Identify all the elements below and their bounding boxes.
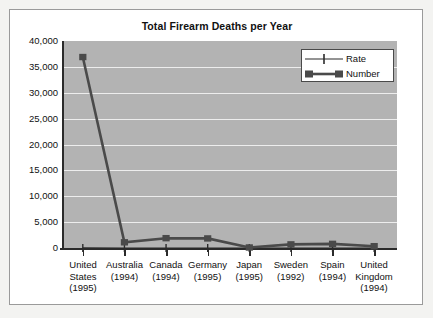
screenshot-root: Total Firearm Deaths per Year 40,000 35,… xyxy=(0,0,433,318)
x-label-line: States xyxy=(69,271,96,283)
x-axis-label-canada: Canada (1994) xyxy=(149,259,182,282)
x-label-line: (1994) xyxy=(106,271,143,283)
chart-card: Total Firearm Deaths per Year 40,000 35,… xyxy=(9,9,423,305)
legend-label-rate: Rate xyxy=(346,53,366,65)
y-tick-label: 35,000 xyxy=(12,62,58,72)
x-axis-label-germany: Germany (1995) xyxy=(188,259,227,282)
gridline-10000 xyxy=(64,196,397,197)
x-label-line: (1995) xyxy=(235,271,262,283)
gridline-25000 xyxy=(64,119,397,120)
x-label-line: United xyxy=(355,259,393,271)
gridline-30000 xyxy=(64,93,397,94)
y-tick-label: 5,000 xyxy=(12,217,58,227)
x-tick-mark xyxy=(332,250,334,256)
legend-item-number: Number xyxy=(302,66,395,81)
x-axis-line xyxy=(60,248,397,250)
y-tick-label: 20,000 xyxy=(12,140,58,150)
x-axis-label-united-kingdom: United Kingdom (1994) xyxy=(355,259,393,294)
x-axis-label-japan: Japan (1995) xyxy=(235,259,262,282)
x-tick-mark xyxy=(249,250,251,256)
x-axis-label-australia: Australia (1994) xyxy=(106,259,143,282)
gridline-20000 xyxy=(64,145,397,146)
x-label-line: United xyxy=(69,259,96,271)
x-tick-mark xyxy=(166,250,168,256)
x-label-line: Germany xyxy=(188,259,227,271)
x-label-line: (1995) xyxy=(69,282,96,294)
gridline-5000 xyxy=(64,222,397,223)
x-label-line: Japan xyxy=(235,259,262,271)
x-label-line: (1995) xyxy=(188,271,227,283)
gridline-15000 xyxy=(64,170,397,171)
legend-label-number: Number xyxy=(346,68,380,80)
x-tick-mark xyxy=(124,250,126,256)
y-tick-label: 10,000 xyxy=(12,191,58,201)
number-line-square-marker-icon xyxy=(302,67,346,81)
x-label-line: (1992) xyxy=(274,271,308,283)
y-tick-label: 40,000 xyxy=(12,36,58,46)
x-tick-mark xyxy=(374,250,376,256)
rate-line-plus-marker-icon xyxy=(302,52,346,66)
y-tick-label: 25,000 xyxy=(12,114,58,124)
x-tick-mark xyxy=(291,250,293,256)
x-label-line: (1994) xyxy=(355,282,393,294)
x-label-line: Kingdom xyxy=(355,271,393,283)
y-tick-label: 15,000 xyxy=(12,165,58,175)
chart-legend: Rate Number xyxy=(301,49,394,82)
y-tick-label: 30,000 xyxy=(12,88,58,98)
legend-item-rate: Rate xyxy=(302,51,395,66)
x-label-line: (1994) xyxy=(319,271,346,283)
x-label-line: Spain xyxy=(319,259,346,271)
x-label-line: Canada xyxy=(149,259,182,271)
y-tick-label: 0 xyxy=(12,243,58,253)
x-label-line: Sweden xyxy=(274,259,308,271)
x-axis-label-spain: Spain (1994) xyxy=(319,259,346,282)
x-label-line: Australia xyxy=(106,259,143,271)
x-axis-label-united-states: United States (1995) xyxy=(69,259,96,294)
x-axis-label-sweden: Sweden (1992) xyxy=(274,259,308,282)
x-tick-mark xyxy=(83,250,85,256)
chart-title: Total Firearm Deaths per Year xyxy=(10,20,424,32)
x-label-line: (1994) xyxy=(149,271,182,283)
x-tick-mark xyxy=(208,250,210,256)
